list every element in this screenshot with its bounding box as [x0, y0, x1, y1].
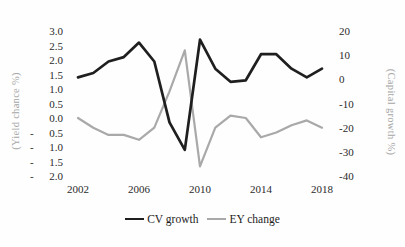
right-axis-tick-label: 0 [339, 73, 373, 85]
x-axis-tick-label: 2002 [61, 183, 95, 196]
tick-value: 0.5 [49, 98, 63, 110]
left-axis-tick-label: -1.5 [30, 156, 63, 168]
x-axis-tick-label: 2014 [244, 183, 278, 196]
left-axis-tick-label: 1.0 [30, 83, 63, 95]
series-line-ey-change [78, 50, 322, 166]
cv-growth-line-swatch [125, 218, 144, 220]
minus-sign: - [30, 156, 34, 168]
x-axis-tick-label: 2006 [122, 183, 156, 196]
left-axis-tick-label: 1.5 [30, 69, 63, 81]
left-axis-tick-label: -0.5 [30, 127, 63, 139]
tick-value: 0.0 [49, 112, 63, 124]
series-line-cv-growth [78, 40, 322, 150]
right-axis-tick-label: -10 [339, 98, 373, 110]
left-axis-tick-label: 2.5 [30, 40, 63, 52]
left-axis-tick-label: -2.0 [30, 170, 63, 182]
right-axis-tick-label: 10 [339, 49, 373, 61]
chart: 3.02.52.01.51.00.50.0-0.5-1.0-1.5-2.0 20… [0, 0, 405, 247]
x-axis-tick-label: 2010 [183, 183, 217, 196]
minus-sign: - [30, 170, 34, 182]
right-axis-tick-label: -20 [339, 122, 373, 134]
tick-value: 2.0 [49, 170, 63, 182]
right-axis-tick-label: 20 [339, 25, 373, 37]
tick-value: 1.5 [49, 69, 63, 81]
tick-value: 1.0 [49, 83, 63, 95]
legend-label-ey-change: EY change [229, 212, 279, 226]
right-axis-tick-label: -30 [339, 146, 373, 158]
tick-value: 2.0 [49, 54, 63, 66]
left-axis-title: (Yield chance %) [10, 72, 21, 150]
left-axis-tick-label: 0.5 [30, 98, 63, 110]
left-axis-tick-label: 0.0 [30, 112, 63, 124]
tick-value: 3.0 [49, 25, 63, 37]
legend-label-cv-growth: CV growth [147, 212, 198, 226]
tick-value: 1.5 [49, 156, 63, 168]
x-axis-tick-label: 2018 [305, 183, 339, 196]
right-axis-tick-label: -40 [339, 170, 373, 182]
legend: CV growth EY change [0, 212, 405, 226]
tick-value: 1.0 [49, 141, 63, 153]
tick-value: 0.5 [49, 127, 63, 139]
left-axis-tick-label: 3.0 [30, 25, 63, 37]
minus-sign: - [30, 127, 34, 139]
legend-item-ey-change: EY change [207, 212, 279, 226]
tick-value: 2.5 [49, 40, 63, 52]
legend-item-cv-growth: CV growth [125, 212, 198, 226]
right-axis-title: (Capital growth %) [386, 69, 397, 155]
ey-change-line-swatch [207, 218, 226, 220]
minus-sign: - [30, 141, 34, 153]
left-axis-tick-label: -1.0 [30, 141, 63, 153]
left-axis-tick-label: 2.0 [30, 54, 63, 66]
